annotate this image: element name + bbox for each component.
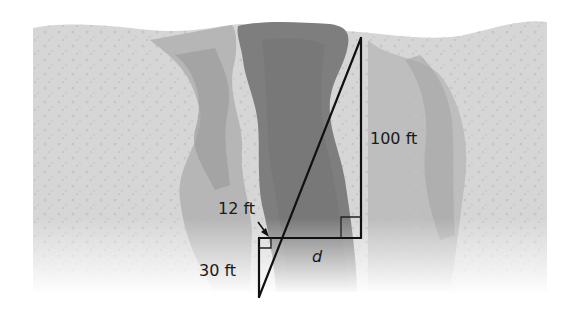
terrain [30, 20, 550, 295]
canyon-diagram: 100 ft 12 ft 30 ft d [0, 0, 569, 322]
label-100ft: 100 ft [370, 129, 417, 148]
label-30ft: 30 ft [199, 261, 236, 280]
label-12ft: 12 ft [218, 199, 255, 218]
terrain-fade [30, 20, 550, 295]
label-d: d [312, 247, 323, 266]
